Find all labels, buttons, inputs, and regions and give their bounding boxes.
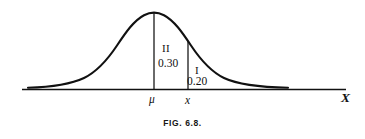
axis-tick-label-x: x <box>185 95 190 107</box>
figure-caption: FIG. 6.8. <box>0 118 365 128</box>
region-I-probability-value: 0.20 <box>187 76 207 88</box>
figure-normal-distribution: II 0.30 I 0.20 μ x X FIG. 6.8. <box>0 0 365 139</box>
axis-tick-label-mu: μ <box>149 94 155 106</box>
region-II-probability-value: 0.30 <box>158 58 178 70</box>
x-axis-name-label: X <box>341 91 350 105</box>
region-II-roman-label: II <box>162 43 170 54</box>
normal-density-curve <box>28 13 288 88</box>
